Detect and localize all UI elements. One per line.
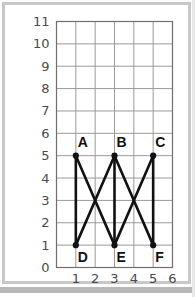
point-marker-f [150, 242, 156, 248]
x-axis-tick-label: 1 [72, 271, 80, 286]
point-label-c: C [155, 134, 165, 150]
point-marker-a [73, 153, 79, 159]
x-axis-tick-label: 2 [91, 271, 99, 286]
y-axis-tick-label: 6 [41, 126, 49, 141]
y-axis-tick-label: 2 [41, 215, 49, 230]
y-axis-tick-label: 9 [41, 59, 49, 74]
y-axis-tick-label: 1 [41, 238, 49, 253]
point-marker-c [150, 153, 156, 159]
point-marker-e [111, 242, 117, 248]
point-label-d: D [78, 249, 88, 265]
y-axis-tick-label: 11 [33, 14, 50, 29]
point-marker-d [73, 242, 79, 248]
point-label-b: B [117, 134, 127, 150]
y-axis-tick-label: 5 [41, 148, 49, 163]
scanned-page: 01234567891011 123456 ABCDEF [0, 0, 195, 297]
x-axis-tick-label: 4 [130, 271, 138, 286]
chart-canvas: 01234567891011 123456 ABCDEF [0, 0, 195, 297]
x-axis-tick-label: 3 [110, 271, 118, 286]
point-label-e: E [117, 249, 126, 265]
coordinate-grid-figure: 01234567891011 123456 ABCDEF [0, 0, 195, 297]
x-axis-tick-label: 5 [149, 271, 157, 286]
x-axis-tick-label: 6 [168, 271, 176, 286]
point-label-f: F [155, 249, 164, 265]
x-axis-tick-labels: 123456 [72, 271, 177, 286]
point-marker-b [111, 153, 117, 159]
y-axis-tick-label: 3 [41, 193, 49, 208]
y-axis-tick-label: 7 [41, 103, 49, 118]
y-axis-tick-label: 0 [41, 260, 49, 275]
y-axis-tick-label: 4 [41, 171, 49, 186]
y-axis-tick-labels: 01234567891011 [33, 14, 50, 275]
y-axis-tick-label: 8 [41, 81, 49, 96]
point-label-a: A [78, 134, 88, 150]
y-axis-tick-label: 10 [33, 36, 50, 51]
